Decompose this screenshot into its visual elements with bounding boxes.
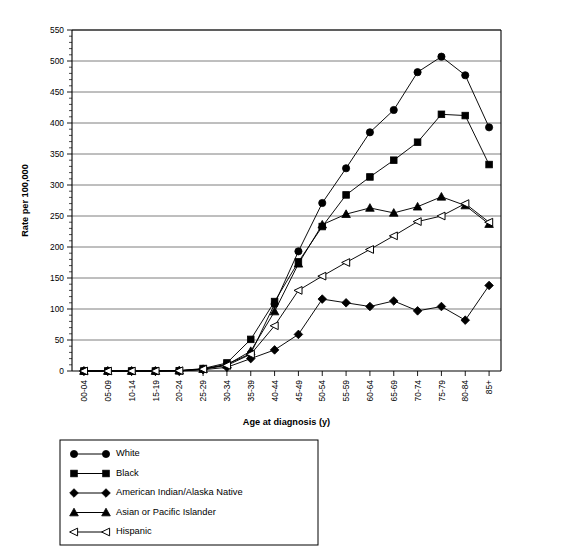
- line-chart: 050100150200250300350400450500550Rate pe…: [0, 0, 571, 560]
- x-tick-label: 10-14: [127, 380, 137, 402]
- data-point-marker: [270, 322, 278, 330]
- data-point-marker: [70, 450, 77, 457]
- data-point-marker: [342, 259, 350, 267]
- x-tick-label: 85+: [484, 380, 494, 394]
- data-point-marker: [70, 489, 79, 498]
- y-tick-label: 50: [55, 335, 65, 345]
- x-tick-label: 80-84: [460, 380, 470, 402]
- data-point-marker: [342, 165, 349, 172]
- y-tick-label: 100: [50, 304, 64, 314]
- y-tick-label: 550: [50, 25, 64, 35]
- series: [80, 281, 494, 375]
- legend-label: Asian or Pacific Islander: [116, 507, 216, 517]
- y-tick-label: 450: [50, 87, 64, 97]
- data-point-marker: [71, 470, 78, 477]
- x-tick-label: 00-04: [79, 380, 89, 402]
- data-point-marker: [438, 53, 445, 60]
- legend-label: American Indian/Alaska Native: [116, 487, 243, 497]
- data-point-marker: [342, 299, 351, 308]
- series-line: [84, 114, 489, 371]
- data-point-marker: [462, 112, 469, 119]
- x-tick-label: 25-29: [198, 380, 208, 402]
- x-tick-label: 60-64: [365, 380, 375, 402]
- x-tick-label: 75-79: [437, 380, 447, 402]
- data-point-marker: [271, 298, 278, 305]
- y-tick-label: 300: [50, 180, 64, 190]
- series: [81, 111, 493, 374]
- data-point-marker: [343, 192, 350, 199]
- data-point-marker: [389, 297, 398, 306]
- x-tick-label: 70-74: [413, 380, 423, 402]
- data-point-marker: [485, 281, 494, 290]
- series: [80, 192, 494, 374]
- data-point-marker: [102, 489, 111, 498]
- data-point-marker: [70, 528, 78, 536]
- chart-figure: 050100150200250300350400450500550Rate pe…: [0, 0, 571, 560]
- data-point-marker: [413, 218, 421, 226]
- y-tick-label: 0: [59, 366, 64, 376]
- legend: WhiteBlackAmerican Indian/Alaska NativeA…: [60, 440, 318, 545]
- series: [80, 53, 492, 375]
- y-tick-label: 250: [50, 211, 64, 221]
- x-tick-label: 45-49: [294, 380, 304, 402]
- data-point-marker: [294, 330, 303, 339]
- legend-item: White: [70, 448, 139, 458]
- data-point-marker: [485, 124, 492, 131]
- y-tick-label: 150: [50, 273, 64, 283]
- data-point-marker: [389, 232, 397, 240]
- y-axis-title: Rate per 100,000: [20, 164, 30, 237]
- data-point-marker: [390, 157, 397, 164]
- x-tick-label: 15-19: [151, 380, 161, 402]
- legend-item: Hispanic: [70, 526, 152, 536]
- legend-item: American Indian/Alaska Native: [70, 487, 243, 497]
- data-point-marker: [437, 302, 446, 311]
- data-point-marker: [294, 287, 302, 295]
- data-point-marker: [390, 106, 397, 113]
- y-axis-ticks: 050100150200250300350400450500550: [50, 25, 72, 376]
- x-axis-title: Age at diagnosis (y): [243, 417, 330, 427]
- data-point-marker: [318, 272, 326, 280]
- data-point-marker: [413, 307, 422, 316]
- data-point-marker: [366, 302, 375, 311]
- x-tick-label: 40-44: [270, 380, 280, 402]
- y-tick-label: 400: [50, 118, 64, 128]
- y-tick-label: 350: [50, 149, 64, 159]
- data-point-marker: [366, 129, 373, 136]
- x-tick-label: 50-54: [317, 380, 327, 402]
- gridlines: [72, 30, 501, 340]
- y-tick-label: 200: [50, 242, 64, 252]
- data-point-marker: [103, 470, 110, 477]
- data-point-marker: [486, 161, 493, 168]
- data-point-marker: [462, 72, 469, 79]
- legend-label: Black: [116, 468, 139, 478]
- legend-item: Asian or Pacific Islander: [70, 507, 216, 517]
- data-point-marker: [247, 336, 254, 343]
- x-tick-label: 30-34: [222, 380, 232, 402]
- data-point-marker: [437, 192, 446, 200]
- data-point-marker: [295, 248, 302, 255]
- x-axis-ticks: 00-0405-0910-1415-1920-2425-2930-3435-39…: [79, 371, 494, 401]
- data-point-marker: [414, 69, 421, 76]
- data-point-marker: [438, 111, 445, 118]
- legend-item: Black: [71, 468, 139, 478]
- data-point-marker: [102, 528, 110, 536]
- data-point-marker: [319, 199, 326, 206]
- x-tick-label: 35-39: [246, 380, 256, 402]
- legend-label: White: [116, 448, 140, 458]
- data-point-marker: [437, 212, 445, 220]
- y-tick-label: 500: [50, 56, 64, 66]
- x-tick-label: 55-59: [341, 380, 351, 402]
- data-point-marker: [318, 295, 327, 304]
- series-line: [84, 285, 489, 371]
- series-line: [84, 57, 489, 371]
- series-group: [80, 53, 494, 375]
- data-point-marker: [366, 204, 375, 212]
- series: [80, 200, 493, 375]
- legend-label: Hispanic: [116, 526, 152, 536]
- x-tick-label: 65-69: [389, 380, 399, 402]
- data-point-marker: [367, 174, 374, 181]
- data-point-marker: [270, 346, 279, 355]
- x-tick-label: 05-09: [103, 380, 113, 402]
- data-point-marker: [102, 450, 109, 457]
- series-line: [84, 197, 489, 371]
